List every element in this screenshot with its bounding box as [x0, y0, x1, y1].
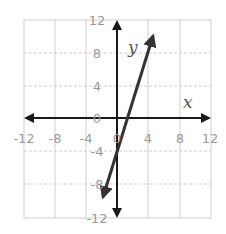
y-tick: 8 [93, 46, 101, 61]
y-tick: 4 [93, 79, 101, 94]
axes [26, 22, 209, 216]
y-tick: -12 [86, 211, 107, 226]
x-tick: -12 [13, 131, 34, 146]
x-tick: 0 [113, 131, 121, 146]
coordinate-plane: 12 8 4 0 -4 -8 -12 -12 -8 -4 0 4 8 12 y … [0, 0, 226, 234]
y-tick: -8 [91, 177, 104, 192]
y-axis-label: y [127, 37, 138, 57]
x-tick: -4 [80, 131, 93, 146]
x-tick: -8 [49, 131, 62, 146]
x-tick: 12 [202, 131, 219, 146]
x-tick: 4 [144, 131, 152, 146]
x-tick: 8 [176, 131, 184, 146]
y-tick: 0 [93, 111, 101, 126]
y-tick: 12 [89, 13, 106, 28]
x-axis-label: x [183, 92, 193, 112]
y-tick: -4 [91, 144, 104, 159]
x-tick-labels: -12 -8 -4 0 4 8 12 [13, 131, 218, 146]
plotted-line [103, 36, 153, 197]
